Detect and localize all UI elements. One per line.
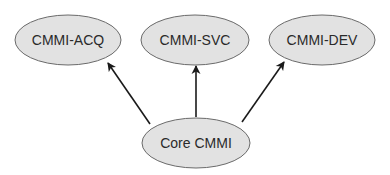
cmmi-diagram: CMMI-ACQ CMMI-SVC CMMI-DEV Core CMMI xyxy=(0,0,390,175)
edge-core-to-acq xyxy=(108,63,150,124)
node-label: Core CMMI xyxy=(160,135,232,151)
node-cmmi-dev: CMMI-DEV xyxy=(269,15,375,65)
node-cmmi-acq: CMMI-ACQ xyxy=(15,15,121,65)
node-label: CMMI-ACQ xyxy=(32,32,104,48)
edge-core-to-dev xyxy=(242,62,284,122)
node-core-cmmi: Core CMMI xyxy=(142,118,250,168)
edges xyxy=(108,62,284,124)
node-label: CMMI-SVC xyxy=(160,32,231,48)
node-label: CMMI-DEV xyxy=(287,32,358,48)
node-cmmi-svc: CMMI-SVC xyxy=(141,15,249,65)
